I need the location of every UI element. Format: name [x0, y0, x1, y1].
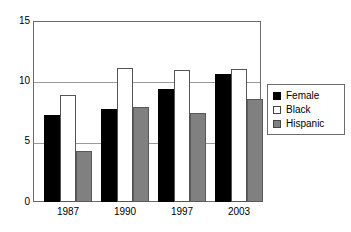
plot-area — [33, 21, 261, 202]
y-tick-label-5: 5 — [4, 136, 30, 146]
y-tick-label-10: 10 — [4, 76, 30, 86]
x-tick-label-1997: 1997 — [162, 206, 202, 218]
legend-label-hispanic: Hispanic — [286, 119, 324, 129]
legend-label-female: Female — [286, 91, 319, 101]
x-tick-label-1990: 1990 — [105, 206, 145, 218]
gridline-10 — [34, 82, 260, 83]
bar-chart: 15 10 5 0 1987 1990 1997 2003 — [0, 0, 351, 232]
legend-item-hispanic: Hispanic — [273, 117, 340, 131]
legend-swatch-icon-hispanic — [273, 120, 281, 128]
legend-item-black: Black — [273, 103, 340, 117]
x-tick-label-2003: 2003 — [219, 206, 259, 218]
y-tick-label-0: 0 — [4, 197, 30, 207]
y-tick-label-15: 15 — [4, 16, 30, 26]
legend-swatch-icon-female — [273, 92, 281, 100]
legend-label-black: Black — [286, 105, 310, 115]
legend-swatch-icon-black — [273, 106, 281, 114]
x-tick-label-1987: 1987 — [48, 206, 88, 218]
gridline-5 — [34, 143, 260, 144]
chart-legend: Female Black Hispanic — [267, 84, 345, 135]
legend-item-female: Female — [273, 89, 340, 103]
y-axis: 15 10 5 0 — [0, 0, 30, 232]
